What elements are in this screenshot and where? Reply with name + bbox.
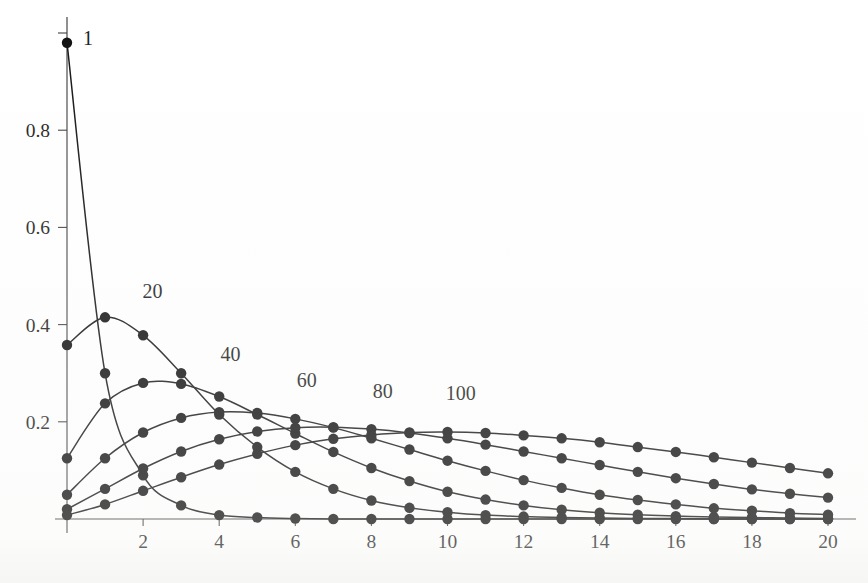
data-point <box>100 312 110 322</box>
data-point <box>62 453 72 463</box>
data-point <box>214 391 224 401</box>
y-tick-label: 0.2 <box>26 412 50 433</box>
data-point <box>366 430 376 440</box>
data-point <box>747 457 757 467</box>
data-point <box>214 434 224 444</box>
plot-canvas: 24681012141618200.20.40.60.8 12040608010… <box>0 0 868 583</box>
data-point <box>100 368 110 378</box>
x-tick-label: 2 <box>138 531 148 552</box>
x-tick-label: 10 <box>438 531 458 552</box>
x-tick-label: 12 <box>514 531 534 552</box>
data-point <box>747 506 757 516</box>
data-point <box>595 507 605 517</box>
data-point <box>328 514 338 524</box>
x-tick-label: 14 <box>590 531 610 552</box>
data-point <box>176 413 186 423</box>
data-point <box>176 368 186 378</box>
x-tick-label: 18 <box>742 531 762 552</box>
data-point <box>252 426 262 436</box>
series-label-80: 80 <box>373 380 393 402</box>
data-point <box>404 503 414 513</box>
data-point <box>556 453 566 463</box>
data-point <box>747 484 757 494</box>
data-point <box>100 484 110 494</box>
data-point <box>290 422 300 432</box>
data-point <box>252 449 262 459</box>
data-point <box>442 455 452 465</box>
data-point <box>328 484 338 494</box>
data-point <box>62 490 72 500</box>
data-point <box>785 463 795 473</box>
data-point <box>518 500 528 510</box>
data-point <box>176 500 186 510</box>
data-point <box>442 507 452 517</box>
data-point <box>785 489 795 499</box>
data-point <box>138 427 148 437</box>
data-point <box>785 508 795 518</box>
data-point <box>823 468 833 478</box>
x-tick-label: 8 <box>367 531 377 552</box>
data-point <box>671 499 681 509</box>
data-point <box>518 430 528 440</box>
x-tick-label: 4 <box>214 531 224 552</box>
data-point <box>480 439 490 449</box>
data-point <box>328 422 338 432</box>
data-point <box>214 510 224 520</box>
data-point <box>176 446 186 456</box>
data-point <box>556 505 566 515</box>
y-tick-label: 0.4 <box>26 315 51 336</box>
data-point <box>823 509 833 519</box>
data-point <box>214 459 224 469</box>
data-point <box>290 467 300 477</box>
data-point <box>138 330 148 340</box>
data-point <box>328 447 338 457</box>
data-point <box>518 475 528 485</box>
data-point <box>252 408 262 418</box>
data-point <box>480 494 490 504</box>
series-label-20: 20 <box>143 280 163 302</box>
data-point <box>480 466 490 476</box>
figure-container: 24681012141618200.20.40.60.8 12040608010… <box>0 0 868 583</box>
data-point <box>595 437 605 447</box>
data-point <box>404 427 414 437</box>
data-point <box>138 463 148 473</box>
data-point <box>404 476 414 486</box>
x-tick-label: 6 <box>290 531 300 552</box>
data-point <box>138 378 148 388</box>
series-label-1: 1 <box>83 27 93 49</box>
data-point <box>328 434 338 444</box>
data-point <box>252 512 262 522</box>
data-point <box>366 514 376 524</box>
data-point <box>404 444 414 454</box>
series-labels-layer: 120406080100 <box>83 27 476 404</box>
data-point <box>671 473 681 483</box>
data-point <box>556 483 566 493</box>
data-point <box>518 511 528 521</box>
data-point <box>633 467 643 477</box>
y-tick-label: 0.8 <box>26 120 50 141</box>
data-point <box>100 499 110 509</box>
data-point <box>518 446 528 456</box>
data-point <box>62 510 72 520</box>
axes-layer <box>55 17 856 533</box>
markers-layer <box>62 38 833 525</box>
data-point <box>176 472 186 482</box>
data-point <box>595 490 605 500</box>
data-point <box>62 38 72 48</box>
data-point <box>442 427 452 437</box>
data-point <box>138 486 148 496</box>
data-point <box>556 433 566 443</box>
data-point <box>366 463 376 473</box>
data-point <box>709 452 719 462</box>
data-point <box>709 479 719 489</box>
data-point <box>671 447 681 457</box>
data-point <box>633 495 643 505</box>
data-point <box>633 442 643 452</box>
data-point <box>214 407 224 417</box>
data-point <box>442 487 452 497</box>
x-tick-label: 16 <box>666 531 686 552</box>
data-point <box>595 460 605 470</box>
data-point <box>100 453 110 463</box>
data-point <box>366 495 376 505</box>
data-point <box>100 398 110 408</box>
